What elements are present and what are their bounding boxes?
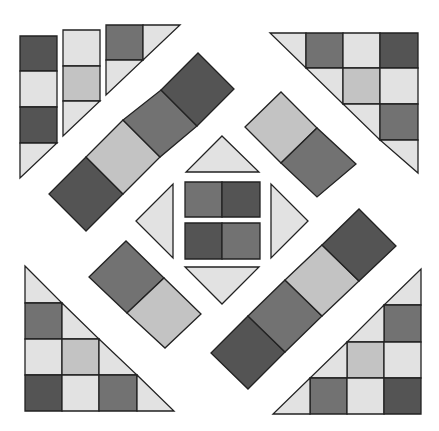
- top-left-corner-triangle-bottom: [106, 60, 143, 95]
- bottom-left-triangle-r3c3: [99, 375, 137, 411]
- bottom-right-triangle-r3c1: [310, 378, 347, 414]
- bottom-left-triangle-r1c1: [25, 303, 62, 339]
- bottom-left-triangle-r3c2: [62, 375, 99, 411]
- bottom-right-triangle-r3c2: [347, 378, 384, 414]
- top-right-triangle-tri-2: [306, 68, 343, 104]
- top-right-triangle-r1c3: [380, 33, 418, 68]
- bottom-right-triangle-tri-2: [347, 305, 384, 342]
- top-right-triangle-r1c2: [343, 33, 380, 68]
- top-left-strip-1-triangle: [20, 143, 57, 178]
- center-triangle-right: [271, 184, 308, 258]
- top-left-strip-2-square-1: [63, 30, 100, 66]
- bottom-right-triangle-r2c2: [347, 342, 384, 378]
- center-square-top-left: [185, 182, 222, 217]
- bottom-left-triangle-r2c1: [25, 339, 62, 375]
- center-triangle-top: [186, 136, 259, 172]
- bottom-left-triangle-tri-1: [25, 266, 62, 303]
- bottom-right-triangle-tri-4: [273, 378, 310, 414]
- top-left-strip-1-square-1: [20, 36, 57, 71]
- top-left-corner-square: [106, 25, 143, 60]
- bottom-left-triangle-tri-2: [62, 303, 99, 339]
- center-triangle-bottom: [185, 267, 259, 304]
- quilt-diagram: [0, 0, 439, 431]
- bottom-right-triangle-r3c3: [384, 378, 421, 414]
- top-right-triangle-tri-3: [343, 104, 380, 140]
- center-square-bottom-left: [185, 223, 222, 259]
- center-triangle-left: [136, 184, 173, 258]
- top-left-strip-2-triangle: [63, 101, 100, 136]
- bottom-left-triangle-r2c2: [62, 339, 99, 375]
- center-square-bottom-right: [222, 223, 260, 259]
- top-right-triangle-tri-4: [380, 140, 418, 173]
- bottom-right-triangle-r2c3: [384, 342, 421, 378]
- bottom-left-triangle-tri-4: [137, 375, 174, 411]
- bottom-right-triangle-tri-3: [310, 342, 347, 378]
- top-right-triangle-r1c1: [306, 33, 343, 68]
- center-square-top-right: [222, 182, 260, 217]
- top-right-triangle-tri-1: [270, 33, 306, 68]
- bottom-right-triangle-tri-1: [384, 269, 421, 305]
- top-left-strip-1-square-2: [20, 71, 57, 107]
- top-left-strip-1-square-3: [20, 107, 57, 143]
- top-right-triangle-r2c3: [380, 68, 418, 104]
- bottom-left-triangle-tri-3: [99, 339, 137, 375]
- top-right-triangle-r2c2: [343, 68, 380, 104]
- bottom-left-triangle-r3c1: [25, 375, 62, 411]
- top-right-triangle-r3c3: [380, 104, 418, 140]
- top-left-strip-2-square-2: [63, 66, 100, 101]
- top-left-corner-triangle-right: [143, 25, 180, 60]
- quilt-pieces: [20, 25, 421, 414]
- bottom-right-triangle-r1c3: [384, 305, 421, 342]
